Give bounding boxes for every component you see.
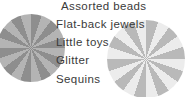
list-item: Little toys — [56, 36, 109, 49]
list-item: Sequins — [56, 73, 100, 86]
illustration-canvas: Assorted beads Flat-back jewels Little t… — [0, 0, 185, 97]
craft-supplies-list: Assorted beads Flat-back jewels Little t… — [0, 0, 185, 97]
list-item: Assorted beads — [61, 0, 147, 13]
list-item: Flat-back jewels — [56, 18, 145, 31]
list-item: Glitter — [56, 54, 89, 67]
